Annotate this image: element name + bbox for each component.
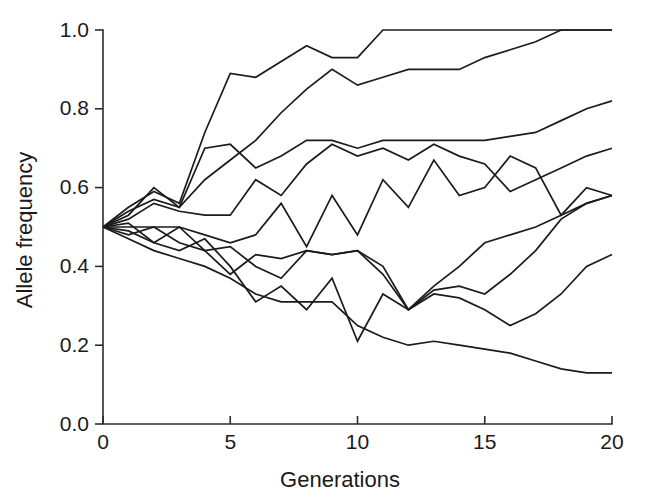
series-line-replicate-1	[103, 30, 612, 227]
series-line-replicate-4	[103, 144, 612, 227]
series-line-replicate-9	[103, 227, 612, 373]
x-axis-ticks	[103, 416, 612, 424]
x-axis-tick-labels: 05101520	[97, 430, 624, 453]
series-line-replicate-3	[103, 101, 612, 227]
x-tick-label-4: 20	[600, 430, 623, 453]
y-axis-ticks	[95, 30, 103, 424]
y-tick-label-3: 0.6	[60, 175, 89, 198]
y-axis-tick-labels: 0.00.20.40.60.81.0	[60, 18, 90, 435]
x-tick-label-0: 0	[97, 430, 109, 453]
y-tick-label-1: 0.2	[60, 333, 89, 356]
line-chart-canvas: 0.00.20.40.60.81.0 05101520 Generations …	[0, 0, 668, 499]
series-line-replicate-7	[103, 227, 612, 326]
y-tick-label-2: 0.4	[60, 254, 90, 277]
x-tick-label-3: 15	[473, 430, 496, 453]
series-group	[103, 30, 612, 373]
chart-figure: 0.00.20.40.60.81.0 05101520 Generations …	[0, 0, 668, 499]
x-tick-label-1: 5	[224, 430, 236, 453]
y-tick-label-0: 0.0	[60, 412, 89, 435]
x-axis-title: Generations	[280, 467, 400, 492]
y-tick-label-5: 1.0	[60, 18, 89, 41]
series-line-replicate-6	[103, 195, 612, 309]
y-tick-label-4: 0.8	[60, 96, 89, 119]
series-line-replicate-2	[103, 30, 612, 227]
y-axis-title: Allele frequency	[12, 152, 37, 309]
x-tick-label-2: 10	[346, 430, 369, 453]
series-line-replicate-8	[103, 195, 612, 341]
